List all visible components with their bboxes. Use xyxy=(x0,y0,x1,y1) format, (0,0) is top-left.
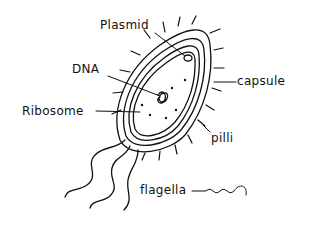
label-capsule: capsule xyxy=(237,74,285,88)
flagella xyxy=(65,140,138,210)
bacterium-diagram: Plasmid DNA capsule Ribosome pilli flage… xyxy=(0,0,313,232)
label-pilli: pilli xyxy=(211,131,233,145)
label-plasmid: Plasmid xyxy=(100,18,149,32)
label-dna: DNA xyxy=(72,62,99,76)
dna-squiggle xyxy=(158,92,168,103)
leader-lines xyxy=(96,33,246,195)
label-flagella: flagella xyxy=(140,183,186,197)
ribosomes xyxy=(141,79,186,119)
label-ribosome: Ribosome xyxy=(22,104,84,118)
